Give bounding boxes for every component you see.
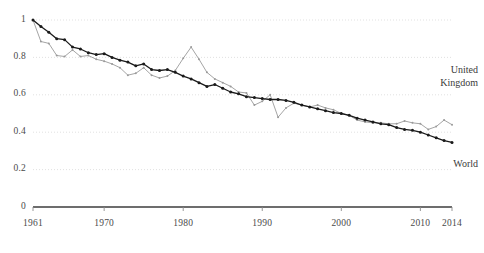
x-axis-tick-label: 2014 — [427, 218, 477, 228]
data-point — [79, 55, 81, 57]
data-point — [435, 136, 438, 139]
series-label-united-kingdom: United Kingdom — [388, 64, 478, 89]
data-point — [95, 58, 97, 60]
data-point — [206, 71, 208, 73]
data-point — [308, 105, 311, 108]
data-point — [277, 116, 279, 118]
data-point — [245, 95, 248, 98]
data-point — [47, 31, 50, 34]
data-point — [190, 77, 193, 80]
data-point — [103, 60, 105, 62]
x-axis — [33, 207, 452, 211]
data-point — [32, 19, 35, 22]
series-label-world: World — [388, 158, 478, 171]
data-point — [451, 141, 454, 144]
chart-plot-area — [0, 0, 484, 253]
y-axis-tick-label: 0.4 — [14, 126, 26, 136]
data-point — [356, 117, 359, 120]
data-point — [95, 53, 98, 56]
data-point — [277, 98, 280, 101]
data-point — [395, 126, 398, 129]
data-point — [134, 64, 137, 67]
data-point — [317, 104, 319, 106]
x-axis-tick-label: 1990 — [237, 218, 287, 228]
data-point — [443, 119, 445, 121]
data-point — [300, 104, 303, 107]
data-point — [404, 120, 406, 122]
data-point — [126, 61, 129, 64]
data-point — [411, 129, 414, 132]
data-point — [64, 55, 66, 57]
series-label-uk-line2: Kingdom — [388, 77, 478, 90]
data-point — [325, 107, 327, 109]
y-axis-tick-label: 0.8 — [14, 51, 26, 61]
data-point — [198, 58, 200, 60]
data-point — [371, 120, 374, 123]
x-axis-tick-label: 1970 — [79, 218, 129, 228]
data-point — [230, 85, 232, 87]
data-point — [103, 52, 106, 55]
data-point — [150, 68, 153, 71]
data-point — [403, 128, 406, 131]
series-label-uk-line1: United — [388, 64, 478, 77]
data-point — [39, 25, 42, 28]
data-point — [451, 124, 453, 126]
data-point — [427, 134, 430, 137]
data-point — [435, 126, 437, 128]
data-point — [71, 46, 74, 49]
data-point — [143, 67, 145, 69]
data-point — [166, 75, 168, 77]
data-point — [379, 122, 382, 125]
data-point — [63, 38, 66, 41]
data-point — [245, 92, 247, 94]
data-point — [419, 131, 422, 134]
y-axis-tick-label: 1 — [21, 14, 26, 24]
data-point — [332, 109, 334, 111]
data-point — [237, 92, 240, 95]
data-point — [261, 97, 264, 100]
data-point — [118, 59, 121, 62]
data-point — [174, 71, 177, 74]
data-point — [190, 46, 192, 48]
data-point — [127, 74, 129, 76]
data-point — [427, 128, 429, 130]
data-point — [198, 81, 201, 84]
x-axis-tick-label: 2000 — [316, 218, 366, 228]
data-point — [166, 68, 169, 71]
data-point — [269, 98, 272, 101]
data-point — [261, 100, 263, 102]
line-chart: 00.20.40.60.81 1961197019801990200020102… — [0, 0, 484, 253]
data-point — [253, 104, 255, 106]
data-point — [222, 82, 224, 84]
data-point — [364, 119, 367, 122]
y-axis-tick-label: 0.2 — [14, 163, 26, 173]
data-point — [253, 96, 256, 99]
data-point — [324, 109, 327, 112]
data-point — [119, 67, 121, 69]
data-point — [72, 49, 74, 51]
data-point — [214, 78, 216, 80]
data-point — [348, 114, 351, 117]
data-point — [332, 111, 335, 114]
data-point — [48, 42, 50, 44]
data-point — [87, 51, 90, 54]
x-axis-tick-label: 1961 — [8, 218, 58, 228]
data-point — [205, 85, 208, 88]
data-point — [285, 107, 287, 109]
data-point — [213, 83, 216, 86]
data-point — [79, 47, 82, 50]
data-point — [158, 69, 161, 72]
x-axis-tick-label: 1980 — [158, 218, 208, 228]
data-point — [55, 37, 58, 40]
data-point — [182, 57, 184, 59]
data-point — [443, 139, 446, 142]
data-point — [142, 62, 145, 65]
data-point — [284, 99, 287, 102]
y-axis-tick-label: 0.6 — [14, 88, 26, 98]
data-point — [40, 41, 42, 43]
data-point — [419, 123, 421, 125]
y-axis-tick-label: 0 — [21, 201, 26, 211]
data-point — [87, 55, 89, 57]
data-point — [411, 122, 413, 124]
data-point — [111, 56, 114, 59]
